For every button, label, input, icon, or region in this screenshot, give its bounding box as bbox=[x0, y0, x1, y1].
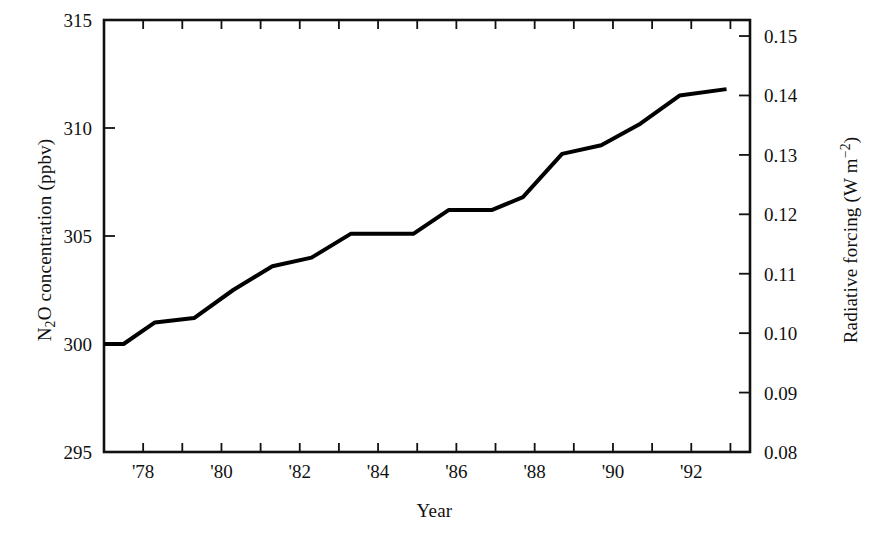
y-tick-label-right: 0.08 bbox=[764, 442, 797, 463]
y-axis-left-title-rest: O concentration (ppbv) bbox=[34, 139, 55, 321]
chart-figure: '78'80'82'84'86'88'90'92 295300305310315… bbox=[0, 0, 869, 537]
y-tick-label-right: 0.10 bbox=[764, 323, 797, 344]
y-axis-right-ticks bbox=[739, 36, 750, 393]
chart-plot-area: '78'80'82'84'86'88'90'92 295300305310315… bbox=[0, 0, 869, 537]
series-line bbox=[104, 89, 727, 344]
y-axis-left-title-subscript: 2 bbox=[43, 320, 58, 327]
y-tick-label-left: 310 bbox=[64, 118, 93, 139]
x-tick-label: '86 bbox=[445, 461, 467, 482]
y-tick-label-right: 0.11 bbox=[764, 264, 797, 285]
y-tick-label-left: 300 bbox=[64, 334, 93, 355]
x-tick-label: '82 bbox=[289, 461, 311, 482]
y-axis-left-title-main: N bbox=[34, 327, 55, 341]
x-tick-label: '88 bbox=[523, 461, 545, 482]
y-axis-right-tick-labels: 0.080.090.100.110.120.130.140.15 bbox=[764, 26, 798, 463]
x-axis-title: Year bbox=[0, 500, 869, 522]
y-axis-left-ticks bbox=[104, 128, 115, 344]
x-tick-label: '84 bbox=[367, 461, 390, 482]
y-axis-right-title-main: Radiative forcing (W m bbox=[840, 158, 861, 343]
x-tick-label: '92 bbox=[680, 461, 702, 482]
y-tick-label-right: 0.14 bbox=[764, 85, 798, 106]
y-axis-left-tick-labels: 295300305310315 bbox=[64, 10, 93, 463]
x-axis-tick-labels: '78'80'82'84'86'88'90'92 bbox=[132, 461, 703, 482]
x-axis-ticks bbox=[104, 20, 730, 452]
x-tick-label: '80 bbox=[210, 461, 232, 482]
data-series-line bbox=[104, 89, 727, 344]
y-axis-right-title-close: ) bbox=[840, 137, 861, 144]
x-tick-label: '90 bbox=[602, 461, 624, 482]
y-tick-label-right: 0.12 bbox=[764, 204, 797, 225]
y-tick-label-right: 0.09 bbox=[764, 383, 797, 404]
y-axis-right-title-superscript: −2 bbox=[838, 143, 853, 158]
y-tick-label-left: 315 bbox=[64, 10, 93, 31]
y-tick-label-right: 0.15 bbox=[764, 26, 797, 47]
y-tick-label-left: 295 bbox=[64, 442, 93, 463]
y-tick-label-right: 0.13 bbox=[764, 145, 797, 166]
y-axis-right-title: Radiative forcing (W m−2) bbox=[838, 25, 868, 455]
y-axis-left-title: N2O concentration (ppbv) bbox=[34, 25, 64, 455]
axis-frame bbox=[104, 20, 750, 452]
x-tick-label: '78 bbox=[132, 461, 154, 482]
y-tick-label-left: 305 bbox=[64, 226, 93, 247]
